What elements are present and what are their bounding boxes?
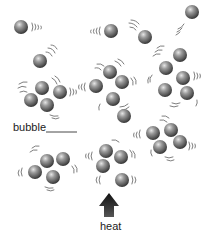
molecule-cluster — [28, 152, 70, 184]
heat-arrow-icon — [99, 193, 119, 217]
molecule-sphere — [117, 109, 131, 123]
molecule-cluster — [24, 81, 67, 112]
boiling-water-diagram: bubble heat — [0, 0, 209, 241]
molecule-sphere — [33, 54, 47, 68]
molecule-sphere — [185, 5, 199, 19]
molecule-cluster — [158, 48, 194, 100]
molecule-sphere — [104, 24, 118, 38]
molecule-cluster — [96, 144, 129, 187]
molecule-sphere — [138, 30, 152, 44]
heat-label: heat — [100, 220, 121, 232]
molecule-cluster — [146, 123, 187, 154]
bubble-label: bubble — [13, 121, 46, 133]
molecule-sphere — [14, 20, 28, 34]
molecule-cluster — [89, 65, 129, 106]
